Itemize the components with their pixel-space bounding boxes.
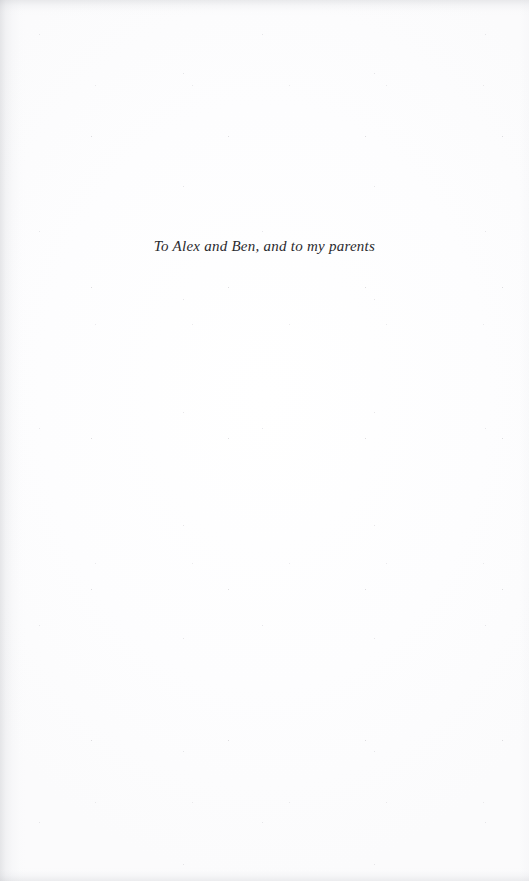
paper-background xyxy=(0,0,529,881)
dedication-page: To Alex and Ben, and to my parents xyxy=(0,0,529,881)
dedication-text: To Alex and Ben, and to my parents xyxy=(0,237,529,256)
